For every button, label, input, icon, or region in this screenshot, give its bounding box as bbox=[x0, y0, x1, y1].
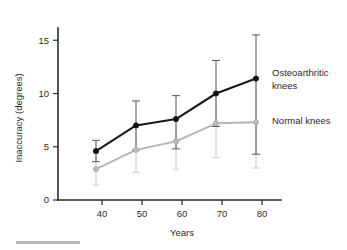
y-axis-title: Inaccuracy (degrees) bbox=[13, 73, 24, 162]
y-axis-ticks: 051015 bbox=[38, 35, 58, 206]
data-point bbox=[214, 121, 219, 126]
x-axis-ticks: 4050607080 bbox=[97, 200, 268, 219]
x-tick-label: 60 bbox=[177, 208, 188, 219]
x-tick-label: 70 bbox=[217, 208, 228, 219]
footer-rule bbox=[16, 241, 80, 244]
data-point bbox=[93, 148, 98, 153]
line-chart: 051015 4050607080 Inaccuracy (degrees) Y… bbox=[0, 0, 347, 250]
data-point bbox=[134, 147, 139, 152]
data-point bbox=[254, 120, 259, 125]
data-point bbox=[253, 76, 258, 81]
x-tick-label: 80 bbox=[257, 208, 268, 219]
data-point bbox=[94, 167, 99, 172]
legend-label-osteoarthritic-line2: knees bbox=[272, 80, 298, 91]
legend-label-normal: Normal knees bbox=[272, 115, 331, 126]
data-point bbox=[173, 116, 178, 121]
chart-figure: 051015 4050607080 Inaccuracy (degrees) Y… bbox=[0, 0, 347, 250]
data-point bbox=[213, 91, 218, 96]
x-axis-title: Years bbox=[170, 227, 194, 238]
y-tick-label: 5 bbox=[44, 141, 49, 152]
y-tick-label: 10 bbox=[38, 88, 49, 99]
x-tick-label: 40 bbox=[97, 208, 108, 219]
data-point bbox=[133, 123, 138, 128]
data-point bbox=[174, 139, 179, 144]
y-tick-label: 15 bbox=[38, 35, 49, 46]
y-tick-label: 0 bbox=[44, 194, 49, 205]
legend-label-osteoarthritic-line1: Osteoarthritic bbox=[272, 67, 329, 78]
x-tick-label: 50 bbox=[137, 208, 148, 219]
